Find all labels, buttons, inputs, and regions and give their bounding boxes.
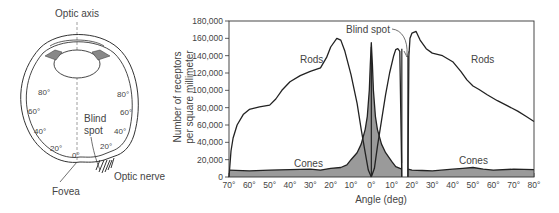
- figure: Optic axis 80° 60° 40° 20° 80° 60° 40° 2…: [0, 0, 559, 213]
- x-axis-label: Angle (deg): [355, 194, 407, 205]
- x-tick-label: 40°: [284, 180, 297, 190]
- rods-label-left: Rods: [300, 54, 323, 65]
- x-tick-label: 40°: [446, 180, 459, 190]
- x-tick-label: 30°: [426, 180, 439, 190]
- blind-spot-pointer: [91, 137, 100, 170]
- x-tick-label: 20°: [406, 180, 419, 190]
- y-tick-label: 140,000: [192, 51, 223, 61]
- y-tick-label: 80,000: [197, 103, 223, 113]
- optic-axis-label: Optic axis: [55, 8, 99, 19]
- angle-left-20: 20°: [50, 144, 62, 153]
- x-tick-label: 50°: [467, 180, 480, 190]
- y-tick-label: 160,000: [192, 33, 223, 43]
- y-tick-label: 120,000: [192, 68, 223, 78]
- blind-spot-gap: [403, 163, 407, 177]
- fovea-label: Fovea: [52, 186, 80, 197]
- y-tick-label: 60,000: [197, 120, 223, 130]
- y-axis-ticks: 020,00040,00060,00080,000100,000120,0001…: [192, 16, 229, 182]
- angle-center-0: 0°: [72, 151, 80, 160]
- x-tick-label: 30°: [304, 180, 317, 190]
- optic-nerve: [96, 158, 114, 173]
- x-tick-label: 60°: [243, 180, 256, 190]
- x-tick-label: 20°: [324, 180, 337, 190]
- rods-label-right: Rods: [471, 54, 494, 65]
- y-axis-label-line1: Number of receptors: [172, 51, 183, 142]
- cones-label-right: Cones: [459, 155, 488, 166]
- optic-nerve-label: Optic nerve: [114, 171, 166, 182]
- angle-right-80: 80°: [117, 90, 129, 99]
- x-tick-label: 0°: [367, 180, 375, 190]
- x-tick-label: 70°: [507, 180, 520, 190]
- eye-diagram: Optic axis 80° 60° 40° 20° 80° 60° 40° 2…: [21, 8, 166, 197]
- x-tick-label: 10°: [345, 180, 358, 190]
- x-tick-label: 70°: [223, 180, 236, 190]
- y-tick-label: 20,000: [197, 155, 223, 165]
- angle-right-20: 20°: [100, 142, 112, 151]
- lens: [54, 50, 100, 78]
- x-tick-label: 80°: [528, 180, 541, 190]
- chart: Number of receptors per square millimete…: [172, 16, 540, 205]
- x-tick-label: 10°: [385, 180, 398, 190]
- y-tick-label: 100,000: [192, 85, 223, 95]
- angle-left-80: 80°: [38, 88, 50, 97]
- angle-right-40: 40°: [114, 127, 126, 136]
- angle-left-40: 40°: [34, 127, 46, 136]
- cones-label-left: Cones: [294, 158, 323, 169]
- angle-right-60: 60°: [120, 108, 132, 117]
- fovea-pointer: [60, 162, 77, 182]
- blind-spot-annotation: Blind spot: [346, 24, 390, 35]
- y-axis-label-line2: per square millimeter: [184, 50, 195, 144]
- angle-left-60: 60°: [28, 107, 40, 116]
- x-tick-label: 50°: [263, 180, 276, 190]
- blind-spot-label-line2: spot: [84, 125, 103, 136]
- y-tick-label: 180,000: [192, 16, 223, 26]
- y-tick-label: 40,000: [197, 137, 223, 147]
- x-tick-label: 60°: [487, 180, 500, 190]
- blind-spot-label-line1: Blind: [84, 113, 106, 124]
